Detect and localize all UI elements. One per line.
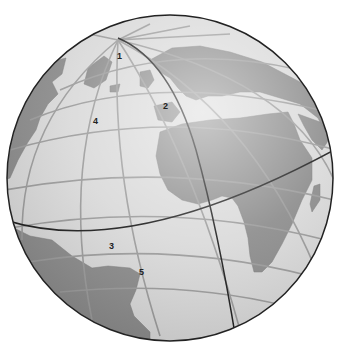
label-5: 5 bbox=[139, 268, 144, 277]
label-2: 2 bbox=[163, 102, 168, 111]
label-3: 3 bbox=[109, 242, 114, 251]
label-4: 4 bbox=[93, 117, 98, 126]
globe-figure: 1 2 3 4 5 bbox=[0, 0, 346, 355]
label-1: 1 bbox=[117, 52, 122, 61]
globe-svg bbox=[0, 0, 346, 355]
